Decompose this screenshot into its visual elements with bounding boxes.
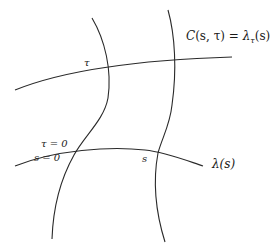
tau-curve	[15, 57, 232, 90]
right-vertical-curve	[155, 10, 174, 242]
s-point-label: s	[142, 154, 147, 164]
surface-label-c: C	[186, 29, 195, 43]
s-zero-label: s = 0	[34, 153, 60, 163]
surface-label-args: (s, τ)	[195, 29, 225, 43]
left-vertical-curve	[52, 18, 109, 239]
surface-label-arg: (s)	[255, 29, 271, 43]
tau-label: τ	[84, 58, 90, 68]
surface-label: C(s, τ) = λτ(s)	[186, 30, 270, 45]
lambda-label: λ(s)	[212, 158, 235, 170]
tau-zero-label: τ = 0	[41, 139, 68, 149]
surface-label-eq: =	[225, 29, 243, 43]
